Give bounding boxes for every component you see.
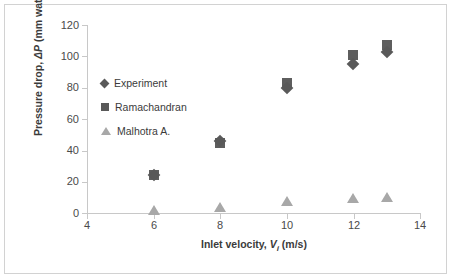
data-point-triangle: [347, 193, 359, 203]
chart-frame: Pressure drop, ΔP (mm water) 120 100 80 …: [4, 4, 447, 274]
x-axis-title-symbol: V: [270, 238, 277, 250]
y-tick-120: 120: [33, 20, 79, 31]
x-tick-8: 8: [200, 220, 240, 231]
y-tick-80: 80: [33, 82, 79, 93]
x-axis-line: [87, 213, 421, 214]
plot-area: [87, 25, 420, 213]
y-tick-0: 0: [33, 208, 79, 219]
data-point-triangle: [381, 192, 393, 202]
data-point-triangle: [281, 196, 293, 206]
x-tick-14: 14: [400, 220, 440, 231]
y-tick-40: 40: [33, 145, 79, 156]
x-axis-title-suffix: (m/s): [279, 238, 307, 250]
y-tick-60: 60: [33, 114, 79, 125]
x-tick-6: 6: [134, 220, 174, 231]
y-tick-100: 100: [33, 51, 79, 62]
x-axis-title-prefix: Inlet velocity,: [201, 238, 270, 250]
x-tick-10: 10: [267, 220, 307, 231]
x-tick-4: 4: [67, 220, 107, 231]
x-axis-title: Inlet velocity, Vi (m/s): [87, 238, 421, 253]
x-tick-12: 12: [334, 220, 374, 231]
data-point-triangle: [214, 202, 226, 212]
data-point-triangle: [148, 205, 160, 215]
y-tick-20: 20: [33, 176, 79, 187]
